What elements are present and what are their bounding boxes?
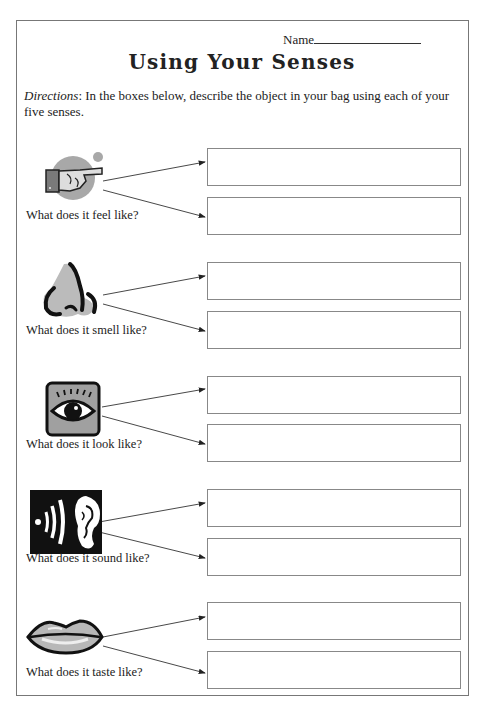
- answer-box-2[interactable]: [207, 651, 461, 689]
- pointing-hand-icon: [40, 148, 108, 210]
- answer-box-1[interactable]: [207, 602, 461, 640]
- name-blank-line[interactable]: [314, 31, 421, 44]
- answer-box-2[interactable]: [207, 424, 461, 462]
- question-label: What does it sound like?: [26, 551, 150, 566]
- directions-text: : In the boxes below, describe the objec…: [24, 88, 449, 119]
- question-label: What does it look like?: [26, 437, 142, 452]
- answer-box-2[interactable]: [207, 197, 461, 235]
- directions-label: Directions: [24, 88, 78, 103]
- name-field[interactable]: Name: [283, 31, 421, 48]
- nose-icon: [40, 260, 104, 322]
- ear-icon: [30, 490, 102, 554]
- worksheet-border: [16, 20, 469, 696]
- answer-box-2[interactable]: [207, 538, 461, 576]
- eye-icon: [45, 381, 101, 437]
- answer-box-1[interactable]: [207, 148, 461, 186]
- answer-box-1[interactable]: [207, 376, 461, 414]
- question-label: What does it taste like?: [26, 665, 143, 680]
- lips-icon: [26, 615, 104, 657]
- name-label: Name: [283, 32, 314, 47]
- question-label: What does it smell like?: [26, 323, 147, 338]
- page-title: Using Your Senses: [0, 50, 484, 74]
- answer-box-1[interactable]: [207, 489, 461, 527]
- question-label: What does it feel like?: [26, 208, 138, 223]
- directions: Directions: In the boxes below, describe…: [24, 88, 464, 120]
- answer-box-2[interactable]: [207, 311, 461, 349]
- answer-box-1[interactable]: [207, 262, 461, 300]
